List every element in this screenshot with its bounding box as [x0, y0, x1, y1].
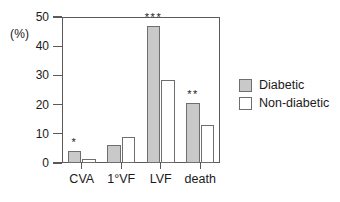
y-axis-tick — [53, 133, 62, 134]
y-axis-tick-label: 30 — [5, 68, 49, 82]
y-axis-tick — [53, 162, 62, 163]
legend-item-diabetic: Diabetic — [239, 78, 329, 92]
x-axis-tick — [121, 163, 122, 169]
legend-item-non-diabetic: Non-diabetic — [239, 96, 329, 110]
bar-1-vf-diabetic — [107, 145, 121, 163]
bar-lvf-diabetic — [147, 26, 161, 163]
y-axis-tick-label: 50 — [5, 10, 49, 24]
y-axis: 01020304050 — [0, 0, 49, 202]
y-axis-tick — [53, 104, 62, 105]
legend-label-diabetic: Diabetic — [259, 78, 304, 92]
x-axis-tick — [81, 163, 82, 169]
x-axis-tick — [160, 163, 161, 169]
significance-marker-lvf: *** — [145, 12, 162, 23]
bar-death-diabetic — [186, 103, 200, 163]
x-axis-label-death: death — [185, 172, 216, 186]
y-axis-tick-label: 10 — [5, 127, 49, 141]
bar-lvf-non-diabetic — [161, 80, 175, 163]
legend-swatch-diabetic — [239, 79, 252, 92]
y-axis-tick — [53, 16, 62, 17]
legend-label-non-diabetic: Non-diabetic — [259, 96, 329, 110]
y-axis-tick — [53, 75, 62, 76]
chart-figure: (%) 01020304050 ****** Diabetic Non-diab… — [0, 0, 340, 202]
significance-marker-cva: * — [72, 137, 78, 148]
x-axis-label-1-vf: 1°VF — [107, 172, 135, 186]
bar-1-vf-non-diabetic — [122, 137, 136, 163]
bar-death-non-diabetic — [201, 125, 215, 163]
y-axis-tick-label: 40 — [5, 39, 49, 53]
chart-legend: Diabetic Non-diabetic — [239, 78, 329, 114]
significance-marker-death: ** — [187, 89, 199, 100]
x-axis-label-lvf: LVF — [150, 172, 172, 186]
y-axis-tick-label: 20 — [5, 98, 49, 112]
x-axis-label-cva: CVA — [69, 172, 94, 186]
y-axis-tick — [53, 46, 62, 47]
y-axis-tick-label: 0 — [5, 156, 49, 170]
bar-cva-diabetic — [68, 151, 82, 163]
legend-swatch-non-diabetic — [239, 97, 252, 110]
x-axis-tick — [200, 163, 201, 169]
bar-cva-non-diabetic — [82, 159, 96, 163]
